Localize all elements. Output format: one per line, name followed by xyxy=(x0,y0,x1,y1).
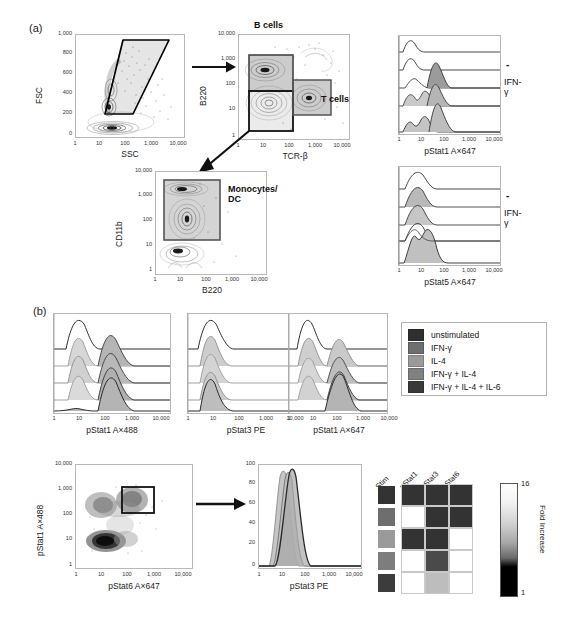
tick: 10,000 xyxy=(483,136,505,142)
tick: 1 xyxy=(393,136,405,142)
colorbar xyxy=(500,483,518,597)
tick: 10 xyxy=(276,571,288,577)
tick: 100 xyxy=(330,415,344,421)
hist-pstat1-a647-traces xyxy=(399,36,500,134)
heatmap-stim-swatch xyxy=(378,486,395,504)
fold-increase-heatmap: Stim pStat1 pStat3 pStat6 16 1 Fold Incr… xyxy=(376,455,566,605)
tick: 10 xyxy=(257,142,269,148)
colorbar-min-label: 1 xyxy=(521,588,525,597)
legend-item: IL-4 xyxy=(408,354,539,367)
hist-pstat3-pe-bottom-plotbox xyxy=(258,464,362,569)
legend-swatch-ifng-il4 xyxy=(408,368,424,380)
tick: 1 xyxy=(48,561,72,567)
tick: 10,000 xyxy=(149,415,173,421)
legend-label: unstimulated xyxy=(431,330,479,340)
tick: 1 xyxy=(70,571,82,577)
panel-b-letter: (b) xyxy=(33,305,46,317)
hist-pstat5-a647-plotbox xyxy=(398,166,501,266)
b-cells-annotation: B cells xyxy=(254,21,283,31)
tick: 1,000 xyxy=(128,191,152,197)
tick: 1,000 xyxy=(306,142,324,148)
tick: 0 xyxy=(234,561,255,567)
hist-pstat5-rowlabel-unstim: - xyxy=(506,190,509,201)
hist-pstat1-a647-panel-b-traces xyxy=(289,314,387,413)
heatmap-cell xyxy=(425,484,449,506)
tick: 10,000 xyxy=(211,30,235,36)
tick: 10 xyxy=(95,571,107,577)
tick: 100 xyxy=(199,276,213,282)
scatter-cd11b-b220: 10,000 1,000 100 10 1 1 10 100 1,000 10,… xyxy=(155,171,267,275)
tick: 100 xyxy=(437,136,451,142)
tick: 1 xyxy=(69,140,81,146)
hist-pstat1-a647-panel-b-xlabel: pStat1 A×647 xyxy=(294,425,384,435)
tick: 1,000 xyxy=(123,415,141,421)
scatter-b220-tcrb-plotbox xyxy=(238,34,350,140)
tick: 1,000 xyxy=(460,136,478,142)
heatmap-cell xyxy=(401,550,425,572)
heatmap-cell xyxy=(401,572,425,594)
hist-pstat5-a647-traces xyxy=(399,167,500,265)
stimulation-legend: unstimulated IFN-γ IL-4 IFN-γ + IL-4 IFN… xyxy=(401,322,547,396)
tick: 100 xyxy=(211,80,235,86)
scatter-fsc-ssc-xlabel: SSC xyxy=(97,149,163,159)
t-cells-annotation: T cells xyxy=(321,95,349,105)
tick: 100 xyxy=(298,571,312,577)
arrow-fsc-to-b220 xyxy=(192,60,236,74)
legend-item: IFN-γ + IL-4 + IL-6 xyxy=(408,380,539,393)
heatmap-cell xyxy=(449,484,473,506)
heatmap-stim-swatch xyxy=(378,574,395,592)
hist-pstat1-rowlabel-unstim: - xyxy=(506,59,509,70)
scatter-b220-tcrb-xlabel: TCR-β xyxy=(260,151,330,161)
hist-pstat1-a647-xlabel: pStat1 A×647 xyxy=(408,146,492,156)
panel-a-letter: (a) xyxy=(29,22,42,34)
legend-item: unstimulated xyxy=(408,328,539,341)
hist-pstat1-a488-xlabel: pStat1 A×488 xyxy=(67,425,157,435)
heatmap-cell xyxy=(425,506,449,528)
legend-item: IFN-γ xyxy=(408,341,539,354)
tick: 10,000 xyxy=(377,415,401,421)
monocytes-dc-line2: DC xyxy=(228,194,241,204)
tick: 20 xyxy=(234,539,255,545)
tick: 10 xyxy=(207,415,219,421)
tick: 100 xyxy=(48,510,72,516)
legend-label: IL-4 xyxy=(431,356,446,366)
tick: 1 xyxy=(393,267,405,273)
tick: 10,000 xyxy=(48,460,72,466)
heatmap-cell xyxy=(449,572,473,594)
scatter-cd11b-b220-ylabel: CD11b xyxy=(114,221,124,247)
tick: 100 xyxy=(282,142,296,148)
tick: 1 xyxy=(182,415,194,421)
heatmap-cell xyxy=(425,528,449,550)
scatter-fsc-ssc-plotbox xyxy=(75,34,185,138)
tick: 0 xyxy=(50,130,72,136)
heatmap-stim-swatch xyxy=(378,530,395,548)
legend-swatch-unstimulated xyxy=(408,329,424,341)
arrow-b220-to-cd11b xyxy=(194,128,252,176)
scatter-b220-tcrb: 10,000 1,000 100 10 1 1 10 100 1,000 10,… xyxy=(238,34,350,140)
tick: 80 xyxy=(234,479,255,485)
heatmap-cell xyxy=(425,572,449,594)
scatter-pstat1-pstat6-xlabel: pStat6 A×647 xyxy=(89,581,179,591)
tick: 10 xyxy=(48,535,72,541)
tick: 10 xyxy=(415,267,427,273)
hist-pstat3-pe-bottom-xlabel: pStat3 PE xyxy=(266,581,352,591)
heatmap-cell xyxy=(401,484,425,506)
tick: 1,000 xyxy=(257,415,275,421)
heatmap-cell xyxy=(449,528,473,550)
legend-swatch-ifng xyxy=(408,342,424,354)
legend-label: IFN-γ + IL-4 + IL-6 xyxy=(431,382,500,392)
hist-pstat1-a647-panel-a: 1 10 100 1,000 10,000 pStat1 A×647 - IFN… xyxy=(398,35,501,135)
tick: 1,000 xyxy=(211,55,235,61)
tick: 1,000 xyxy=(142,140,160,146)
tick: 10 xyxy=(93,140,105,146)
tick: 10,000 xyxy=(128,167,152,173)
legend-label: IFN-γ + IL-4 xyxy=(431,369,476,379)
legend-swatch-il4 xyxy=(408,355,424,367)
tick: 1,000 xyxy=(320,571,338,577)
scatter-fsc-ssc: 1,000 800 600 400 200 0 1 10 100 1,000 1… xyxy=(75,34,185,138)
scatter-cd11b-b220-xlabel: B220 xyxy=(177,285,247,295)
scatter-fsc-ssc-ylabel: FSC xyxy=(34,87,44,104)
tick: 100 xyxy=(98,415,112,421)
hist-pstat3-pe-top-traces xyxy=(188,314,304,413)
scatter-pstat1-pstat6: 10,000 1,000 100 10 1 1 10 100 1,000 10,… xyxy=(75,464,193,569)
